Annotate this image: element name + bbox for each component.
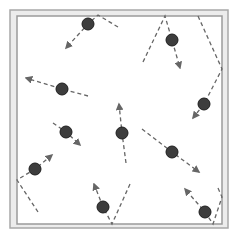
gas-particle [198, 98, 210, 110]
gas-particle [56, 83, 68, 95]
gas-particles-diagram [0, 0, 243, 238]
container-inner-wall [17, 16, 222, 224]
gas-particle [116, 127, 128, 139]
gas-particle [166, 34, 178, 46]
gas-particle [166, 146, 178, 158]
gas-particle [97, 201, 109, 213]
gas-particle [29, 163, 41, 175]
gas-particle [60, 126, 72, 138]
gas-particle [82, 18, 94, 30]
gas-particle [199, 206, 211, 218]
container-box [10, 10, 228, 228]
